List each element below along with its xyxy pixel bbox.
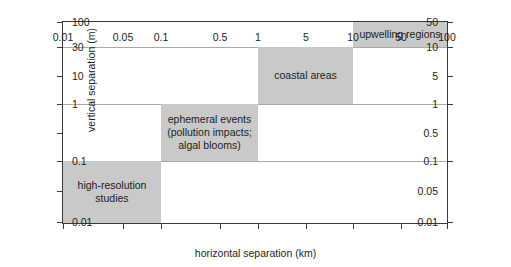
tick-y-left-10 [57, 47, 63, 48]
chart-figure: high-resolution studies ephemeral events… [0, 0, 511, 267]
xtick-label-0.01: 0.01 [53, 31, 73, 43]
xtick-label-50: 50 [395, 31, 407, 43]
ytick-label-left-0.01: 0.01 [418, 216, 438, 228]
tick-y-left-50 [57, 22, 63, 23]
xtick-label-100: 100 [438, 31, 456, 43]
x-axis-label: horizontal separation (km) [0, 247, 511, 259]
ytick-label-left-0.5: 0.5 [423, 127, 438, 139]
tick-y-left-0.05 [57, 191, 63, 192]
tick-y-left-5 [57, 76, 63, 77]
xtick-label-5: 5 [303, 31, 309, 43]
region-label: ephemeral events (pollution impacts; alg… [167, 113, 252, 152]
tick-y-left-0.5 [57, 133, 63, 134]
xtick-label-1: 1 [255, 31, 261, 43]
ytick-label-left-5: 5 [432, 70, 438, 82]
tick-y-left-1 [57, 104, 63, 105]
plot-area: high-resolution studies ephemeral events… [62, 21, 448, 224]
tick-x-0.05 [123, 223, 124, 229]
ytick-label-right-10: 10 [72, 70, 84, 82]
region-label: coastal areas [274, 69, 336, 82]
ytick-label-right-0.01: 0.01 [72, 216, 92, 228]
tick-x-50 [401, 223, 402, 229]
xtick-label-0.5: 0.5 [213, 31, 228, 43]
tick-x-0.01 [63, 223, 64, 229]
tick-x-100 [447, 223, 448, 229]
xtick-label-0.1: 0.1 [154, 31, 169, 43]
tick-y-right-100 [447, 22, 453, 23]
xtick-label-0.05: 0.05 [113, 31, 133, 43]
ytick-label-left-50: 50 [426, 16, 438, 28]
xtick-label-10: 10 [347, 31, 359, 43]
region-ephemeral-events[interactable]: ephemeral events (pollution impacts; alg… [161, 104, 258, 161]
tick-x-10 [353, 223, 354, 229]
ytick-label-left-0.05: 0.05 [418, 185, 438, 197]
ytick-label-left-1: 1 [432, 98, 438, 110]
ytick-label-left-10: 10 [426, 41, 438, 53]
tick-x-5 [306, 223, 307, 229]
ytick-label-left-0.1: 0.1 [423, 155, 438, 167]
tick-x-0.1 [161, 223, 162, 229]
gridline-y-10 [63, 47, 447, 48]
region-coastal-areas[interactable]: coastal areas [258, 47, 353, 104]
tick-y-right-30 [447, 47, 453, 48]
tick-x-0.5 [220, 223, 221, 229]
tick-x-1 [258, 223, 259, 229]
tick-y-left-0.1 [57, 161, 63, 162]
ytick-label-right-30: 30 [72, 41, 84, 53]
ytick-label-right-1: 1 [72, 98, 78, 110]
tick-y-right-0.1 [447, 161, 453, 162]
region-label: high-resolution studies [78, 179, 147, 205]
tick-y-right-1 [447, 104, 453, 105]
y-axis-label-left: vertical separation (m) [85, 0, 97, 160]
tick-y-right-10 [447, 76, 453, 77]
region-high-resolution-studies[interactable]: high-resolution studies [63, 161, 161, 223]
